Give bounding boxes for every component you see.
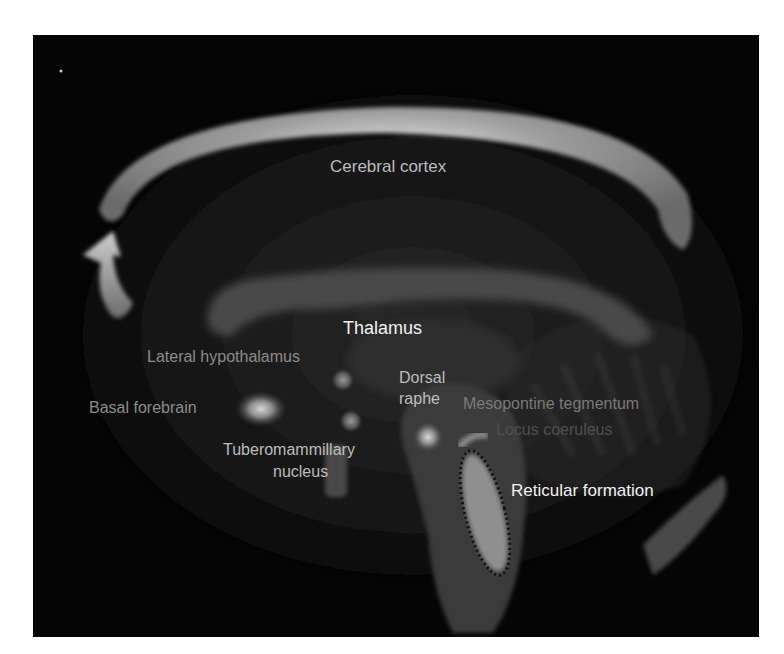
- label-lateral-hypothalamus: Lateral hypothalamus: [147, 348, 300, 366]
- label-tuberomammillary-line2: nucleus: [273, 463, 328, 481]
- label-dorsal-raphe-line2: raphe: [399, 390, 440, 408]
- speck: [60, 70, 63, 73]
- label-locus-coeruleus: Locus coeruleus: [496, 421, 613, 439]
- label-cerebral-cortex: Cerebral cortex: [330, 158, 446, 177]
- dorsal-raphe-nucleus: [412, 421, 444, 453]
- lateral-hypothalamus-nucleus: [331, 368, 355, 392]
- label-thalamus: Thalamus: [343, 319, 422, 339]
- basal-forebrain-nucleus: [235, 391, 287, 427]
- label-tuberomammillary-line1: Tuberomammillary: [223, 441, 355, 459]
- label-mesopontine-tegmentum: Mesopontine tegmentum: [463, 395, 639, 413]
- tuberomammillary-nucleus-dot: [339, 409, 363, 433]
- label-dorsal-raphe-line1: Dorsal: [399, 369, 445, 387]
- label-reticular-formation: Reticular formation: [511, 482, 654, 501]
- brain-sagittal-diagram: Cerebral cortex Thalamus Lateral hypotha…: [33, 35, 759, 637]
- label-basal-forebrain: Basal forebrain: [89, 399, 197, 417]
